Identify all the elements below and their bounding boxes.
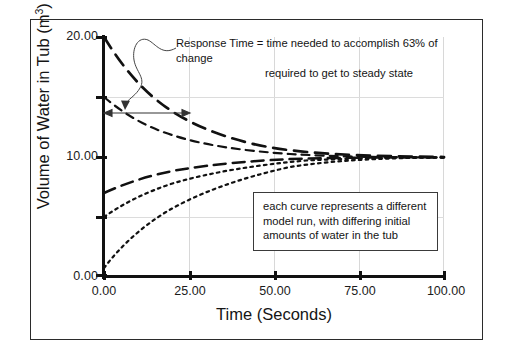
x-tick-100 — [443, 271, 446, 280]
x-tick-label-75: 75.00 — [344, 284, 375, 298]
model-run-note-box: each curve represents a different model … — [253, 192, 438, 251]
gridline-y-15 — [104, 97, 444, 98]
x-tick-0 — [103, 271, 106, 280]
y-axis-title-close: ) — [34, 3, 52, 9]
response-time-annotation: Response Time = time needed to accomplis… — [176, 36, 476, 81]
model-run-note-line-1: each curve represents a different — [263, 199, 429, 214]
y-axis-title: Volume of Water in Tub (m3) — [33, 0, 54, 231]
x-tick-75 — [359, 271, 362, 280]
y-tick-5 — [96, 216, 107, 219]
model-run-note-line-3: amounts of water in the tub — [263, 228, 429, 243]
y-tick-15 — [96, 96, 107, 99]
response-time-line-2: required to get to steady state — [176, 66, 476, 81]
y-tick-label-0: 0.00 — [55, 269, 98, 283]
response-time-line-1: Response Time = time needed to accomplis… — [176, 36, 476, 66]
model-run-note-line-2: model run, with differing initial — [263, 214, 429, 229]
x-tick-label-25: 25.00 — [174, 284, 205, 298]
x-tick-label-100: 100.00 — [427, 284, 465, 298]
y-axis-title-superscript: 3 — [33, 9, 45, 15]
x-tick-50 — [274, 271, 277, 280]
y-tick-label-10: 10.00 — [55, 149, 98, 163]
chart-figure: 20.00 10.00 0.00 0.00 25.00 50.00 75.00 … — [0, 0, 514, 363]
x-tick-label-50: 50.00 — [259, 284, 290, 298]
x-tick-25 — [189, 271, 192, 280]
x-axis-title: Time (Seconds) — [104, 305, 444, 324]
y-axis-title-text: Volume of Water in Tub (m — [34, 15, 52, 210]
x-tick-label-0: 0.00 — [92, 284, 116, 298]
y-tick-label-20: 20.00 — [55, 29, 98, 43]
